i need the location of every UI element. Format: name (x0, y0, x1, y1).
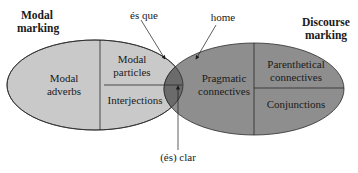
es-que-annotation: és que (124, 9, 164, 22)
parenthetical-connectives-label: Parenthetical connectives (258, 58, 334, 84)
modal-particles-line2: particles (104, 66, 160, 79)
home-annotation: home (205, 11, 241, 24)
modal-marking-line2: marking (17, 22, 57, 35)
discourse-marking-line2: marking (296, 29, 356, 42)
parenthetical-connectives-line2: connectives (258, 71, 334, 84)
modal-adverbs-line1: Modal (34, 72, 94, 85)
modal-adverbs-label: Modal adverbs (34, 72, 94, 98)
discourse-marking-line1: Discourse (296, 16, 356, 29)
pragmatic-connectives-line1: Pragmatic (194, 72, 254, 85)
modal-marking-line1: Modal (17, 9, 57, 22)
modal-marking-heading: Modal marking (17, 9, 57, 35)
interjections-label: Interjections (102, 94, 168, 107)
modal-particles-line1: Modal (104, 53, 160, 66)
discourse-marking-heading: Discourse marking (296, 16, 356, 42)
pragmatic-connectives-line2: connectives (194, 85, 254, 98)
es-clar-annotation: (és) clar (153, 151, 203, 164)
modal-particles-label: Modal particles (104, 53, 160, 79)
conjunctions-label: Conjunctions (258, 98, 334, 111)
parenthetical-connectives-line1: Parenthetical (258, 58, 334, 71)
pragmatic-connectives-label: Pragmatic connectives (194, 72, 254, 98)
modal-adverbs-line2: adverbs (34, 85, 94, 98)
